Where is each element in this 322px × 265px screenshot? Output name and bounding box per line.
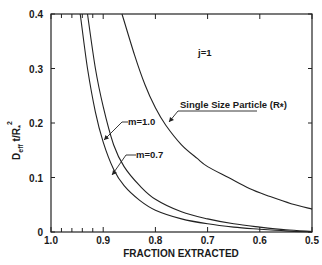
arrow-icon xyxy=(169,117,174,122)
x-tick-label: 0.6 xyxy=(253,235,267,246)
chart: 1.00.90.80.70.60.500.10.20.30.4 m=1.0m=0… xyxy=(0,0,322,265)
plot-axes xyxy=(51,14,312,232)
y-tick-label: 0.3 xyxy=(29,64,43,75)
plot-frame xyxy=(51,14,312,232)
axis-ticks: 1.00.90.80.70.60.500.10.20.30.4 xyxy=(29,9,319,246)
data-curves xyxy=(80,14,312,232)
x-tick-label: 1.0 xyxy=(44,235,58,246)
annotations: m=1.0m=0.7Single Size Particle (R*) xyxy=(104,99,287,175)
y-tick-label: 0.2 xyxy=(29,118,43,129)
y-tick-label: 0 xyxy=(37,227,43,238)
x-axis-title: FRACTION EXTRACTED xyxy=(123,248,239,259)
x-tick-label: 0.9 xyxy=(96,235,110,246)
x-tick-label: 0.7 xyxy=(201,235,215,246)
y-tick-label: 0.4 xyxy=(29,9,43,20)
y-axis-title: Deff t/R*2 xyxy=(6,121,25,160)
j-annotation: j=1 xyxy=(197,47,212,58)
x-tick-label: 0.8 xyxy=(148,235,162,246)
leader-single xyxy=(169,111,257,122)
x-tick-label: 0.5 xyxy=(305,235,319,246)
svg-text:Deff t/R*2: Deff t/R*2 xyxy=(6,121,25,160)
label-m07: m=0.7 xyxy=(136,149,163,160)
y-tick-label: 0.1 xyxy=(29,173,43,184)
label-m1: m=1.0 xyxy=(128,116,155,127)
